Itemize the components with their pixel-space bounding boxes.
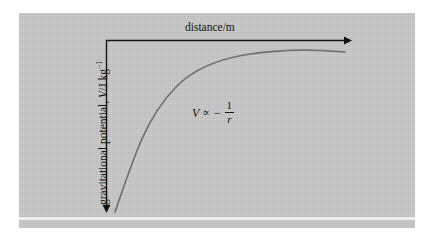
annotation-denominator: r <box>225 113 233 125</box>
annotation-symbol: V <box>192 107 199 119</box>
potential-curve <box>115 50 345 212</box>
x-axis <box>106 37 352 45</box>
x-axis-arrowhead-icon <box>344 37 352 45</box>
y-axis-label-exponent: −1 <box>95 61 104 69</box>
annotation-numerator: 1 <box>225 100 235 112</box>
x-axis-label: distance/m <box>185 22 235 34</box>
figure-root: distance/m gravitational potential, V/J … <box>0 0 434 244</box>
proportional-to-icon: ∝ <box>201 107 210 118</box>
annotation-minus-sign: − <box>213 107 222 119</box>
annotation-fraction: 1 r <box>225 100 235 125</box>
curve-annotation: V ∝ − 1 r <box>192 100 235 125</box>
y-axis-arrowhead-icon <box>103 205 111 213</box>
y-axis-label-text: gravitational potential, <box>97 98 109 205</box>
y-axis-label: gravitational potential, V/J kg−1 <box>98 61 110 205</box>
y-axis-label-symbol: V <box>97 91 109 98</box>
y-axis-label-units: /J kg <box>97 69 109 91</box>
